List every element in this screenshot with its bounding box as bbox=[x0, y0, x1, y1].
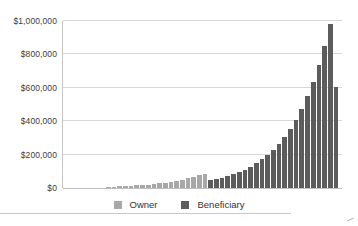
bar-beneficiary-16 bbox=[294, 120, 299, 188]
gridline-600000 bbox=[63, 87, 342, 88]
bar-owner-1 bbox=[106, 187, 111, 188]
bar-owner-14 bbox=[180, 180, 185, 188]
bar-owner-5 bbox=[129, 186, 134, 188]
beneficiary-swatch-icon bbox=[181, 201, 189, 209]
corner-artifact-mark bbox=[347, 218, 354, 222]
figure-bottom-rule bbox=[0, 213, 291, 214]
bar-beneficiary-9 bbox=[254, 163, 259, 188]
bar-beneficiary-19 bbox=[311, 82, 316, 188]
bar-beneficiary-8 bbox=[248, 167, 253, 188]
gridline-0 bbox=[63, 188, 342, 189]
bar-owner-3 bbox=[117, 186, 122, 188]
bar-beneficiary-1 bbox=[208, 180, 213, 188]
bar-owner-7 bbox=[140, 185, 145, 188]
bar-beneficiary-22 bbox=[328, 24, 333, 188]
bar-beneficiary-6 bbox=[237, 172, 242, 188]
bar-beneficiary-7 bbox=[243, 170, 248, 188]
bar-beneficiary-18 bbox=[305, 96, 310, 188]
bar-owner-16 bbox=[191, 177, 196, 188]
bar-owner-18 bbox=[203, 174, 208, 188]
bar-beneficiary-4 bbox=[225, 176, 230, 188]
chart-figure: $0$200,000$400,000$600,000$800,000$1,000… bbox=[0, 0, 358, 226]
bar-owner-2 bbox=[112, 187, 117, 189]
bar-owner-17 bbox=[197, 175, 202, 188]
bar-owner-10 bbox=[157, 183, 162, 188]
bar-beneficiary-12 bbox=[271, 150, 276, 188]
y-axis-tick-label: $0 bbox=[0, 184, 57, 193]
bar-beneficiary-21 bbox=[322, 46, 327, 188]
plot-area bbox=[62, 21, 342, 188]
y-axis-tick-label: $400,000 bbox=[0, 117, 57, 126]
legend-item-owner: Owner bbox=[114, 199, 158, 210]
bar-beneficiary-23 bbox=[334, 87, 339, 188]
y-axis-tick-label: $1,000,000 bbox=[0, 17, 57, 26]
bar-owner-12 bbox=[169, 182, 174, 188]
bar-beneficiary-11 bbox=[265, 155, 270, 188]
bar-owner-13 bbox=[174, 181, 179, 188]
y-axis-tick-label: $200,000 bbox=[0, 151, 57, 160]
bar-beneficiary-20 bbox=[317, 65, 322, 188]
y-axis-tick-label: $800,000 bbox=[0, 50, 57, 59]
bar-beneficiary-2 bbox=[214, 179, 219, 188]
legend-label-owner: Owner bbox=[130, 199, 158, 210]
bar-owner-9 bbox=[152, 184, 157, 188]
bar-owner-15 bbox=[186, 178, 191, 188]
bar-beneficiary-5 bbox=[231, 174, 236, 188]
bar-beneficiary-14 bbox=[282, 137, 287, 188]
bar-beneficiary-10 bbox=[260, 159, 265, 188]
legend-item-beneficiary: Beneficiary bbox=[181, 199, 244, 210]
bar-owner-8 bbox=[146, 185, 151, 189]
bar-owner-6 bbox=[134, 185, 139, 188]
owner-swatch-icon bbox=[114, 201, 122, 209]
bar-owner-11 bbox=[163, 183, 168, 188]
chart-legend: Owner Beneficiary bbox=[0, 199, 358, 210]
y-axis-tick-label: $600,000 bbox=[0, 84, 57, 93]
bar-beneficiary-17 bbox=[299, 109, 304, 188]
bar-owner-4 bbox=[123, 186, 128, 188]
legend-label-beneficiary: Beneficiary bbox=[197, 199, 244, 210]
gridline-1000000 bbox=[63, 20, 342, 21]
bar-beneficiary-15 bbox=[288, 129, 293, 188]
gridline-800000 bbox=[63, 53, 342, 54]
bar-beneficiary-13 bbox=[277, 144, 282, 188]
bar-beneficiary-3 bbox=[220, 178, 225, 188]
